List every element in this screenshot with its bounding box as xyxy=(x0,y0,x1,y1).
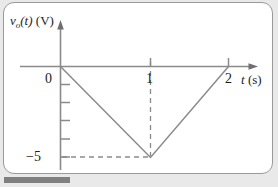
tick-label-origin: 0 xyxy=(45,72,52,86)
x-axis-variable: t xyxy=(241,72,245,87)
y-axis-argument: (t) xyxy=(20,13,32,28)
waveform-trace xyxy=(61,67,229,158)
x-axis-unit: (s) xyxy=(248,72,262,87)
y-axis-label: vo(t) (V) xyxy=(10,14,54,30)
tick-label-one: 1 xyxy=(146,72,153,86)
x-axis-label: t (s) xyxy=(241,73,262,86)
tick-label-minus-five: −5 xyxy=(26,150,41,164)
y-axis xyxy=(57,20,64,170)
figure-container: vo(t) (V) t (s) 0 1 2 −5 xyxy=(0,0,278,187)
tick-label-two: 2 xyxy=(225,72,232,86)
x-axis xyxy=(20,63,258,70)
y-axis-minor-ticks xyxy=(61,85,71,158)
y-axis-unit: (V) xyxy=(36,13,54,28)
bottom-accent-bar xyxy=(4,177,70,183)
